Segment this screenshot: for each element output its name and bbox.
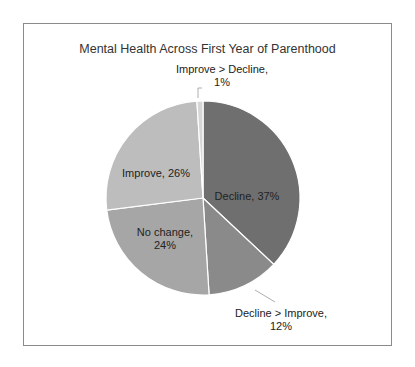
label-no-change-2: 24% bbox=[154, 239, 176, 251]
leader-line-decline-improve bbox=[255, 290, 275, 302]
label-decline-improve-2: 12% bbox=[270, 320, 292, 332]
pie-slice-improve bbox=[106, 101, 203, 210]
label-improve-decline-2: 1% bbox=[214, 76, 230, 88]
label-decline-improve-1: Decline > Improve, bbox=[235, 307, 327, 319]
label-improve: Improve, 26% bbox=[122, 167, 190, 179]
pie-chart: Decline, 37% Decline > Improve, 12% No c… bbox=[0, 0, 415, 367]
label-no-change-1: No change, bbox=[137, 226, 193, 238]
label-decline: Decline, 37% bbox=[215, 190, 280, 202]
label-improve-decline-1: Improve > Decline, bbox=[176, 63, 268, 75]
leader-line-improve-decline bbox=[198, 88, 202, 98]
